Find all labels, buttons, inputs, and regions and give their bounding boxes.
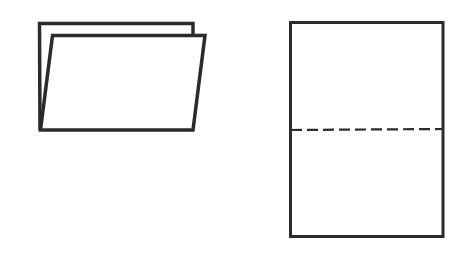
folded-sheet-front-panel <box>41 36 206 131</box>
folded-sheet <box>40 24 206 131</box>
flat-sheet <box>291 23 444 237</box>
folding-diagram <box>0 0 462 254</box>
